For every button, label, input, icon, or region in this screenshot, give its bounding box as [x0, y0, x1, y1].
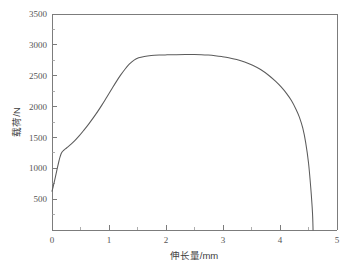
chart-figure: 012345 500100015002000250030003500 伸长量/m…: [0, 0, 348, 272]
x-tick-label: 3: [221, 235, 226, 245]
x-tick-label: 1: [107, 235, 112, 245]
x-tick-label: 4: [278, 235, 283, 245]
x-tick-label: 2: [164, 235, 169, 245]
x-tick-label: 0: [50, 235, 55, 245]
y-tick-label: 2500: [29, 71, 48, 81]
y-tick-label: 1000: [29, 163, 48, 173]
y-tick-label: 3500: [29, 9, 48, 19]
y-tick-label: 500: [34, 194, 48, 204]
load-elongation-chart: 012345 500100015002000250030003500 伸长量/m…: [0, 0, 348, 272]
x-axis-title: 伸长量/mm: [170, 250, 219, 261]
x-tick-label: 5: [335, 235, 340, 245]
y-tick-label: 2000: [29, 102, 48, 112]
y-tick-label: 1500: [29, 133, 48, 143]
y-tick-label: 3000: [29, 40, 48, 50]
y-axis-title: 载荷/N: [11, 107, 22, 137]
